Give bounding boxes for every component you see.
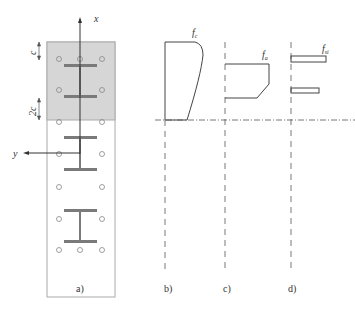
caption-d: d) [288, 283, 296, 295]
y-axis-arrow-icon [23, 151, 29, 155]
panel-c-steel-stress: fa c) [223, 42, 269, 295]
panel-d-rebar-stress: fsi d) [288, 42, 329, 295]
fsi-label: fsi [322, 43, 329, 55]
panel-b-concrete-stress: fc b) [164, 27, 203, 295]
y-axis-label: y [12, 148, 18, 159]
fc-label: fc [192, 27, 198, 39]
composite-section-stress-diagram: x y c 2c a) fc b) fa c) [0, 0, 355, 313]
fa-label: fa [262, 49, 268, 61]
caption-c: c) [223, 283, 231, 295]
concrete-stress-block [165, 42, 203, 120]
caption-b: b) [164, 283, 172, 295]
caption-a: a) [76, 283, 84, 295]
rebar-stress-bottom [291, 88, 319, 93]
rebar-stress-top [291, 56, 326, 62]
dimension-c-label: c [27, 50, 38, 55]
steel-stress-block [225, 64, 269, 98]
x-axis-label: x [93, 13, 99, 24]
x-axis-arrow-icon [78, 17, 82, 23]
dimension-2c-label: 2c [27, 106, 38, 116]
panel-a-cross-section: x y c 2c a) [12, 13, 115, 297]
